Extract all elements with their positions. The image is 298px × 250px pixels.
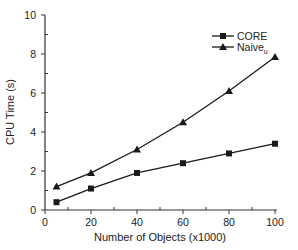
legend: CORENaiveu	[212, 30, 268, 55]
x-axis-title: Number of Objects (x1000)	[94, 231, 226, 243]
y-tick-label: 6	[30, 87, 36, 99]
x-tick-label: 20	[85, 216, 97, 228]
legend-item-naive: Naiveu	[212, 41, 268, 55]
x-tick-label: 100	[266, 216, 284, 228]
triangle-marker-icon	[225, 87, 233, 94]
series-core	[54, 141, 279, 206]
x-tick-label: 0	[42, 216, 48, 228]
y-tick-label: 0	[30, 204, 36, 216]
square-marker-icon	[134, 170, 140, 176]
line-chart: 0204060801000246810 CORENaiveu Number of…	[0, 0, 298, 250]
square-marker-icon	[226, 150, 232, 156]
triangle-marker-icon	[179, 118, 187, 125]
triangle-marker-icon	[271, 53, 279, 60]
square-marker-icon	[54, 199, 60, 205]
x-tick-label: 60	[177, 216, 189, 228]
legend-subscript: u	[264, 48, 268, 55]
square-marker-icon	[180, 160, 186, 166]
y-tick-label: 8	[30, 48, 36, 60]
series-group	[53, 53, 280, 205]
x-tick-label: 80	[223, 216, 235, 228]
y-tick-label: 10	[24, 9, 36, 21]
triangle-marker-icon	[87, 169, 95, 176]
triangle-marker-icon	[133, 146, 141, 153]
legend-label: Naiveu	[237, 41, 268, 55]
square-marker-icon	[272, 141, 278, 147]
square-marker-icon	[88, 186, 94, 192]
series-naive	[53, 53, 280, 190]
y-tick-label: 2	[30, 165, 36, 177]
x-tick-label: 40	[131, 216, 143, 228]
y-axis-title: CPU Time (s)	[4, 79, 16, 145]
square-marker-icon	[220, 33, 226, 39]
y-tick-label: 4	[30, 126, 36, 138]
